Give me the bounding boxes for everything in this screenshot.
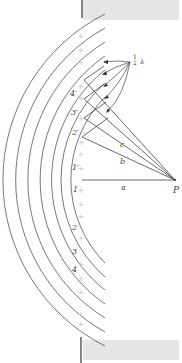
zone-label-2: 2: [72, 224, 77, 232]
fraction-denominator: 2: [133, 59, 137, 66]
zone-label-4-prime: 4′: [70, 90, 77, 98]
rays-from-p: [82, 80, 175, 180]
lambda-symbol: λ: [140, 58, 144, 66]
point-p: [174, 179, 176, 181]
arrowheads: [102, 60, 110, 113]
zone-label-2-prime: 2′: [72, 129, 79, 137]
distance-label-a: a: [121, 184, 126, 192]
bottom-wall: [83, 340, 179, 360]
distance-label-b: b: [120, 158, 125, 166]
top-wall: [83, 0, 179, 20]
half-lambda-label: 1 2: [133, 54, 137, 66]
zone-label-1-prime: 1′: [72, 164, 79, 172]
zone-label-3: 3: [72, 248, 77, 256]
zone-label-3-prime: 3′: [71, 109, 78, 117]
zone-label-1: 1: [73, 186, 78, 194]
zone-label-4: 4: [72, 266, 77, 274]
distance-label-c: c: [120, 141, 124, 149]
fresnel-zone-diagram: [0, 0, 182, 363]
half-wavelength-arrows: [103, 61, 130, 112]
point-p-label: P: [173, 186, 179, 194]
